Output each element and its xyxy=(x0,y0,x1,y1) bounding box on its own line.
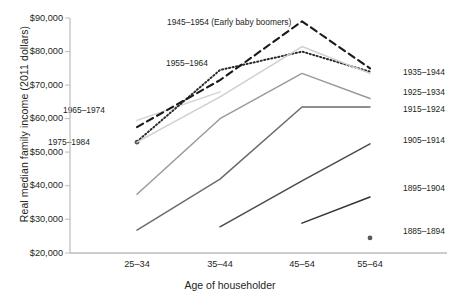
data-point-marker xyxy=(368,235,373,240)
series-line xyxy=(302,197,370,223)
series-line xyxy=(137,52,370,142)
plot-area xyxy=(0,0,453,299)
series-line xyxy=(220,144,370,227)
series-line xyxy=(137,73,370,194)
series-line xyxy=(137,107,370,230)
chart-container: Real median family income (2011 dollars)… xyxy=(0,0,453,299)
series-layer xyxy=(135,21,373,240)
y-axis-ticks xyxy=(65,18,70,253)
